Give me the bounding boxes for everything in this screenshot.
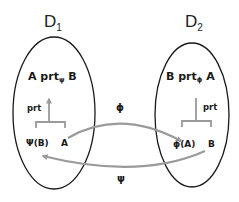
- domain-d2-ellipse: [155, 43, 229, 187]
- mapping-psi: ψ: [43, 151, 205, 184]
- domain-d1-ellipse: [13, 37, 95, 189]
- domain-d1-title: D1: [44, 12, 62, 33]
- bracket-d1: [36, 122, 65, 128]
- bracket-d2: [182, 121, 211, 127]
- mapping-phi: ϕ: [68, 102, 181, 141]
- phi-label: ϕ: [116, 102, 124, 113]
- domain-d2-title: D2: [185, 12, 203, 33]
- relation-d2: B prtϕ A: [166, 70, 215, 84]
- prt-label-d1: prt: [27, 103, 41, 113]
- diagram-canvas: D1 A prtψ B prt Ψ(B) A D2 B prtϕ A prt ϕ…: [0, 0, 239, 202]
- relation-d1: A prtψ B: [28, 70, 77, 84]
- psi-label: ψ: [117, 173, 125, 184]
- prt-label-d2: prt: [203, 102, 217, 112]
- node-psi-b: Ψ(B): [26, 138, 49, 148]
- node-a-d1: A: [61, 138, 68, 148]
- domain-d2: D2 B prtϕ A prt ϕ(A) B: [155, 12, 229, 187]
- node-b-d2: B: [208, 139, 215, 149]
- psi-arrow: [43, 151, 205, 167]
- phi-arrow: [68, 124, 181, 141]
- domain-d1: D1 A prtψ B prt Ψ(B) A: [13, 12, 95, 189]
- node-phi-a: ϕ(A): [173, 139, 195, 149]
